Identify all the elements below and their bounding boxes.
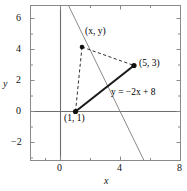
y-tick-label-2: 2	[16, 75, 21, 85]
y-tick-label-6: 6	[16, 13, 21, 23]
y-tick-label-0: 0	[16, 106, 21, 116]
point-label-xy: (x, y)	[85, 27, 106, 37]
x-major-ticks	[61, 157, 181, 161]
y-axis-label: y	[3, 79, 7, 89]
y-major-ticks	[31, 19, 35, 143]
y-ticks-right	[177, 19, 181, 143]
x-axis-label: x	[104, 176, 108, 186]
point-marker-5-3	[131, 63, 136, 68]
y-tick-label-4: 4	[16, 44, 21, 54]
point-marker-xy	[80, 45, 85, 50]
dashed-segment-to-1-1	[76, 47, 83, 112]
x-tick-label-8: 8	[177, 163, 182, 173]
x-tick-label-0: 0	[57, 163, 62, 173]
point-label-5-3: (5, 3)	[139, 59, 160, 69]
x-tick-label-4: 4	[117, 163, 122, 173]
dashed-segment-to-5-3	[82, 47, 134, 66]
constraint-line	[69, 6, 145, 161]
figure-container: 6 4 2 0 −2 0 4 8 y x (x, y) (5, 3) (1, 1…	[0, 0, 187, 191]
point-label-1-1: (1, 1)	[64, 114, 85, 124]
x-ticks-top	[61, 6, 151, 10]
y-tick-label-neg2: −2	[11, 137, 22, 147]
line-equation-label: y = −2x + 8	[111, 88, 156, 98]
